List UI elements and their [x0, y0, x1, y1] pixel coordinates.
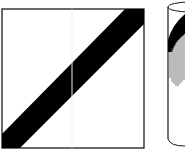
- cylinder-bottom-curve: [168, 139, 185, 146]
- cylinder-top-ellipse: [168, 2, 185, 12]
- wrapped-band: [168, 14, 185, 52]
- cylinder-figure: [168, 2, 185, 146]
- flat-square-figure: [0, 6, 148, 150]
- diagram-canvas: [0, 0, 185, 150]
- diagram-svg: [0, 0, 185, 150]
